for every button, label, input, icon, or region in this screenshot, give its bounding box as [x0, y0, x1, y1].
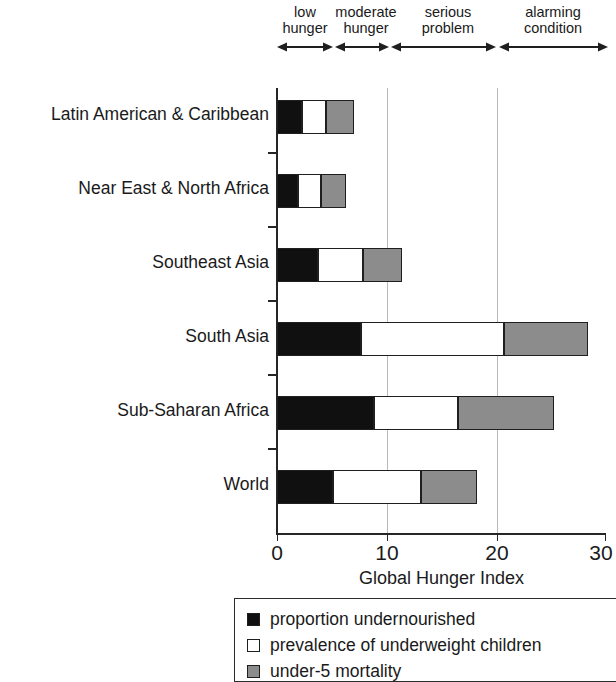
legend-item-prevalence-underweight-children: prevalence of underweight children: [247, 633, 541, 657]
bar-segment-mortality: [326, 100, 353, 134]
band-label-alarming-condition: alarming condition: [500, 4, 606, 36]
x-axis-tick-label-10: 10: [375, 541, 398, 565]
y-axis-line: [276, 88, 278, 535]
legend-label: prevalence of underweight children: [270, 635, 541, 655]
bar-segment-undernourished: [277, 396, 374, 430]
x-axis-line: [277, 533, 606, 535]
bar-segment-underweight: [302, 100, 326, 134]
bar-segment-mortality: [363, 248, 402, 282]
bar-segment-undernourished: [277, 174, 298, 208]
bar-segment-mortality: [321, 174, 346, 208]
legend-item-proportion-undernourished: proportion undernourished: [247, 607, 475, 631]
bar-segment-undernourished: [277, 100, 302, 134]
x-axis-tick-label-20: 20: [485, 541, 508, 565]
x-axis-tick-label-30: 30: [589, 541, 612, 565]
legend-label: under-5 mortality: [270, 661, 401, 681]
bar-row: [277, 100, 606, 134]
band-arrow-serious-problem: [391, 40, 496, 54]
y-axis-tick: [268, 374, 277, 376]
bar-segment-undernourished: [277, 248, 318, 282]
gridline-10: [387, 88, 388, 533]
x-axis-tick-20: [497, 533, 498, 541]
bar-segment-underweight: [374, 396, 458, 430]
legend-swatch-black-icon: [247, 613, 260, 626]
severity-band-labels: low hunger moderate hunger serious probl…: [0, 4, 616, 38]
category-label-sub-saharan-africa: Sub-Saharan Africa: [117, 400, 269, 420]
category-label-latin-american-caribbean: Latin American & Caribbean: [51, 104, 269, 124]
category-label-near-east-north-africa: Near East & North Africa: [78, 178, 269, 198]
bar-segment-mortality: [504, 322, 588, 356]
band-arrow-moderate-hunger: [335, 40, 389, 54]
bar-row: [277, 396, 606, 430]
x-axis-tick-30: [605, 533, 606, 541]
y-axis-tick: [268, 300, 277, 302]
category-label-south-asia: South Asia: [185, 326, 269, 346]
category-label-world: World: [224, 474, 269, 494]
x-axis-tick-0: [277, 533, 278, 541]
x-axis-title: Global Hunger Index: [277, 568, 606, 589]
bar-row: [277, 174, 606, 208]
bar-segment-mortality: [458, 396, 555, 430]
band-label-moderate-hunger: moderate hunger: [330, 4, 402, 36]
band-label-serious-problem: serious problem: [408, 4, 488, 36]
bar-segment-undernourished: [277, 470, 333, 504]
legend-label: proportion undernourished: [270, 609, 475, 629]
band-label-low-hunger: low hunger: [275, 4, 335, 36]
y-axis-tick: [268, 448, 277, 450]
legend: proportion undernourished prevalence of …: [234, 598, 616, 682]
legend-swatch-white-icon: [247, 639, 260, 652]
band-arrow-low-hunger: [277, 40, 333, 54]
bar-segment-mortality: [421, 470, 477, 504]
legend-swatch-gray-icon: [247, 665, 260, 678]
bar-segment-undernourished: [277, 322, 361, 356]
bar-segment-underweight: [298, 174, 321, 208]
band-arrow-alarming-condition: [499, 40, 608, 54]
bar-segment-underweight: [318, 248, 363, 282]
bar-row: [277, 470, 606, 504]
bar-segment-underweight: [333, 470, 421, 504]
y-axis-tick: [268, 226, 277, 228]
bar-row: [277, 248, 606, 282]
bar-segment-underweight: [361, 322, 504, 356]
x-axis-tick-label-0: 0: [271, 541, 283, 565]
gridline-20: [497, 88, 498, 533]
x-axis-tick-10: [387, 533, 388, 541]
legend-item-under-5-mortality: under-5 mortality: [247, 659, 401, 682]
global-hunger-index-chart: low hunger moderate hunger serious probl…: [0, 0, 616, 682]
y-axis-tick: [268, 152, 277, 154]
bar-row: [277, 322, 606, 356]
category-label-southeast-asia: Southeast Asia: [152, 252, 269, 272]
severity-band-arrows: [0, 40, 616, 56]
